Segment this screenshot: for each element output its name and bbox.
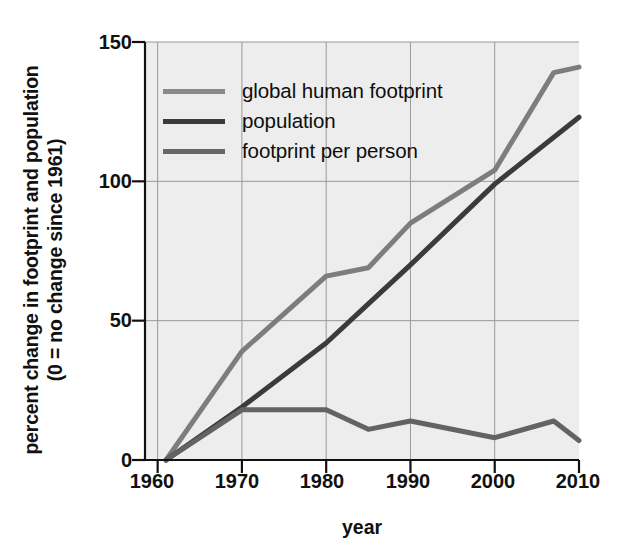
x-tick-label: 2010: [538, 470, 618, 493]
x-axis-title: year: [145, 516, 579, 539]
y-axis-title-line-1: percent change in footprint and populati…: [20, 25, 44, 495]
legend-label: population: [242, 109, 336, 133]
legend-label: global human footprint: [242, 79, 443, 103]
chart-legend: global human footprint population footpr…: [163, 76, 493, 166]
y-axis-title-line-2: (0 = no change since 1961): [44, 25, 68, 495]
legend-swatch-icon: [163, 89, 225, 94]
legend-item-global-human-footprint: global human footprint: [163, 76, 493, 106]
x-tick-label: 1980: [282, 470, 362, 493]
x-tick-label: 1970: [197, 470, 277, 493]
x-tick-label: 1960: [112, 470, 192, 493]
y-tick-label: 50: [72, 309, 132, 332]
legend-item-footprint-per-person: footprint per person: [163, 136, 493, 166]
y-tick-label: 150: [72, 31, 132, 54]
y-axis-title: percent change in footprint and populati…: [20, 25, 80, 495]
chart-figure: 150 100 50 0 1960 1970 1980 1990 2000 20…: [0, 0, 629, 558]
y-tick-label: 0: [72, 449, 132, 472]
legend-item-population: population: [163, 106, 493, 136]
legend-label: footprint per person: [242, 139, 418, 163]
x-tick-label: 1990: [368, 470, 448, 493]
y-tick-label: 100: [72, 170, 132, 193]
legend-swatch-icon: [163, 149, 225, 154]
legend-swatch-icon: [163, 119, 225, 124]
x-tick-label: 2000: [453, 470, 533, 493]
